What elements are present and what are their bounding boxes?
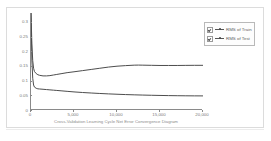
y-axis-tick-mark <box>30 66 32 67</box>
legend-item-rms-of-test[interactable]: RMS of Test <box>207 34 252 43</box>
y-axis-tick-label: 0.3 <box>6 19 28 24</box>
chart-caption: Cross-Validation Learning Cycle Net Erro… <box>30 119 202 125</box>
chart-screenshot: 00.050.10.150.20.250.3 05,00010,00015,00… <box>0 0 271 141</box>
legend-label: RMS of Test <box>226 36 250 41</box>
y-axis-tick-label: 0.05 <box>6 93 28 98</box>
bottom-divider <box>6 129 264 130</box>
x-axis-tick-mark <box>116 110 117 112</box>
y-axis-tick-label: 0 <box>6 108 28 113</box>
x-axis-tick-label: 20,000 <box>195 112 208 118</box>
legend-item-rms-of-train[interactable]: RMS of Train <box>207 25 252 34</box>
x-axis-tick-mark <box>159 110 160 112</box>
series-line-rms-of-test <box>31 13 203 76</box>
x-axis-tick-mark <box>30 110 31 112</box>
legend-label: RMS of Train <box>226 27 252 32</box>
line-marker-icon <box>215 27 224 32</box>
y-axis-tick-mark <box>30 22 32 23</box>
x-axis-tick-label: 10,000 <box>109 112 122 118</box>
x-axis-tick-mark <box>73 110 74 112</box>
y-axis-tick-label: 0.15 <box>6 63 28 68</box>
plot-canvas <box>31 13 203 110</box>
y-axis-labels: 00.050.10.150.20.250.3 <box>4 13 28 110</box>
y-axis-tick-mark <box>30 95 32 96</box>
y-axis-tick-label: 0.25 <box>6 34 28 39</box>
y-axis-tick-mark <box>30 81 32 82</box>
y-axis-tick-label: 0.2 <box>6 49 28 54</box>
x-axis-tick-label: 0 <box>29 112 31 118</box>
checkbox-checked-icon[interactable] <box>207 36 213 42</box>
series-line-rms-of-train <box>31 13 203 96</box>
chart-legend[interactable]: RMS of Train RMS of Test <box>204 22 255 46</box>
y-axis-tick-label: 0.1 <box>6 78 28 83</box>
x-axis-tick-label: 5,000 <box>68 112 79 118</box>
line-marker-icon <box>215 36 224 41</box>
x-axis-tick-mark <box>202 110 203 112</box>
plot-area <box>30 13 202 110</box>
checkbox-checked-icon[interactable] <box>207 27 213 33</box>
x-axis-tick-label: 15,000 <box>152 112 165 118</box>
y-axis-tick-mark <box>30 37 32 38</box>
y-axis-tick-mark <box>30 51 32 52</box>
